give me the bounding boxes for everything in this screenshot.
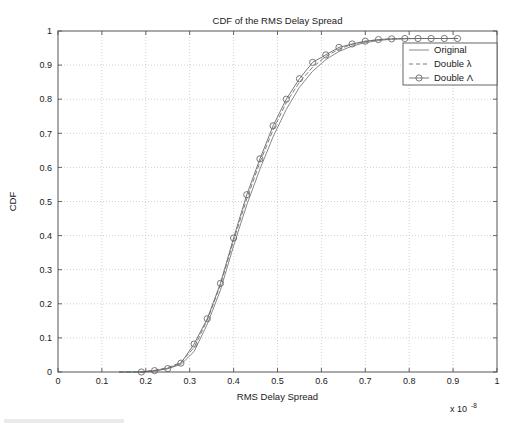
chart-title: CDF of the RMS Delay Spread xyxy=(213,15,343,26)
xtick-label: 0.8 xyxy=(403,376,416,386)
legend-item-label: Double λ xyxy=(434,58,472,69)
ytick-label: 0.6 xyxy=(39,163,52,173)
xtick-label: 0.3 xyxy=(183,376,196,386)
y-axis-label: CDF xyxy=(7,192,18,212)
ytick-label: 0.9 xyxy=(39,60,52,70)
exponent-power: -8 xyxy=(471,402,477,409)
x-axis-label: RMS Delay Spread xyxy=(237,391,318,402)
figure-container: 00.10.20.30.40.50.60.70.80.9100.10.20.30… xyxy=(0,0,515,426)
xtick-label: 0.2 xyxy=(140,376,153,386)
cdf-plot: 00.10.20.30.40.50.60.70.80.9100.10.20.30… xyxy=(0,0,515,426)
xtick-label: 0 xyxy=(55,376,60,386)
ytick-label: 0.2 xyxy=(39,299,52,309)
legend-item-label: Double Λ xyxy=(434,72,474,83)
x-axis-exponent: x 10-8 xyxy=(450,402,477,414)
ytick-label: 0.8 xyxy=(39,94,52,104)
xtick-label: 0.6 xyxy=(315,376,328,386)
xtick-label: 0.5 xyxy=(271,376,284,386)
ytick-label: 0 xyxy=(47,367,52,377)
xtick-label: 0.1 xyxy=(96,376,109,386)
legend: OriginalDouble λDouble Λ xyxy=(403,43,497,85)
xtick-label: 1 xyxy=(494,376,499,386)
ytick-label: 0.1 xyxy=(39,333,52,343)
xtick-label: 0.9 xyxy=(447,376,460,386)
ytick-label: 1 xyxy=(47,26,52,36)
legend-item-label: Original xyxy=(434,44,467,55)
xtick-label: 0.4 xyxy=(227,376,240,386)
ytick-label: 0.5 xyxy=(39,197,52,207)
xtick-label: 0.7 xyxy=(359,376,372,386)
page-scan-artifact xyxy=(4,419,124,423)
ytick-label: 0.4 xyxy=(39,231,52,241)
ytick-label: 0.3 xyxy=(39,265,52,275)
exponent-base: x 10 xyxy=(450,404,467,414)
ytick-label: 0.7 xyxy=(39,129,52,139)
